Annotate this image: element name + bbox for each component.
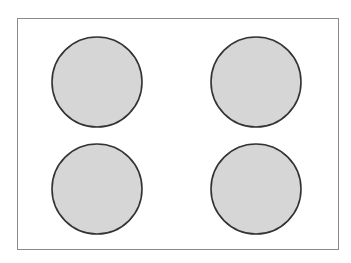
circle-bottom-right [211,144,301,234]
diagram-canvas [0,0,351,263]
circle-bottom-left [52,144,142,234]
circle-top-right [211,37,301,127]
circle-top-left [52,37,142,127]
circles-group [52,37,301,234]
